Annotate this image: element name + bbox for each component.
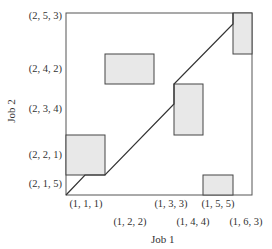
x-tick-label: (1, 6, 3): [229, 216, 262, 227]
x-tick-label: (1, 2, 2): [113, 216, 146, 227]
forbidden-region: [174, 84, 203, 135]
y-tick-label: (2, 1, 5): [0, 178, 62, 189]
forbidden-region: [66, 135, 105, 175]
y-tick-label: (2, 4, 2): [0, 63, 62, 74]
x-tick-label: (1, 5, 5): [201, 198, 234, 209]
x-tick-label: (1, 1, 1): [69, 198, 102, 209]
x-tick-label: (1, 3, 3): [154, 198, 187, 209]
y-axis-title: Job 2: [5, 99, 17, 123]
forbidden-region: [105, 54, 154, 84]
x-axis-title: Job 1: [151, 233, 175, 245]
y-tick-label: (2, 2, 1): [0, 149, 62, 160]
forbidden-region: [203, 175, 233, 195]
forbidden-region: [233, 13, 252, 54]
y-tick-label: (2, 5, 3): [0, 10, 62, 21]
x-tick-label: (1, 4, 4): [176, 216, 209, 227]
progress-diagram: [0, 0, 272, 249]
